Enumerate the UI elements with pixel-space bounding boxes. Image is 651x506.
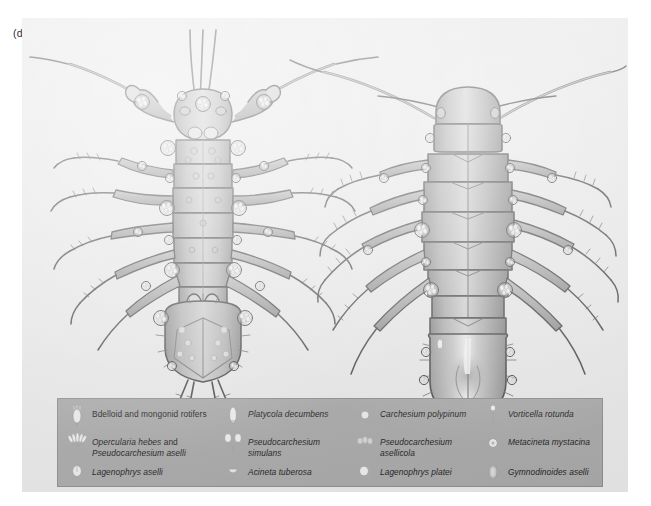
- lagenophrys-aselli-icon: [67, 462, 87, 484]
- legend-item-opercularia-hebes: Opercularia hebes andPseudocarchesium as…: [58, 432, 223, 458]
- legend-label: Metacineta mystacina: [508, 432, 590, 448]
- legend-row: Opercularia hebes andPseudocarchesium as…: [58, 432, 602, 458]
- legend-item-carchesium-polypinum: Carchesium polypinum: [355, 404, 483, 426]
- legend-item-pseudocarchesium-simulans: Pseudocarchesiumsimulans: [223, 432, 355, 458]
- legend-label: Platycola decumbens: [248, 404, 329, 420]
- legend-label: Opercularia hebes andPseudocarchesium as…: [92, 432, 186, 458]
- isopod-ventral-view: [30, 30, 378, 440]
- vorticella-rotunda-icon: [483, 404, 503, 426]
- legend-item-vorticella-rotunda: Vorticella rotunda: [483, 404, 602, 426]
- legend-label: Bdelloid and mongonid rotifers: [92, 404, 207, 420]
- legend-label: Lagenophrys platei: [380, 462, 452, 478]
- legend-item-lagenophrys-aselli: Lagenophrys aselli: [58, 462, 223, 484]
- gymnodinoides-aselli-icon: [483, 462, 503, 484]
- legend-item-acineta-tuberosa: Acineta tuberosa: [223, 462, 355, 484]
- legend-row: Bdelloid and mongonid rotifers Platycola…: [58, 404, 602, 426]
- legend-label: Acineta tuberosa: [248, 462, 312, 478]
- legend-item-gymnodinoides-aselli: Gymnodinoides aselli: [483, 462, 602, 484]
- legend-item-lagenophrys-platei: Lagenophrys platei: [355, 462, 483, 484]
- opercularia-hebes-icon: [67, 432, 87, 454]
- legend-label: Lagenophrys aselli: [92, 462, 163, 478]
- legend-item-bdelloid-rotifers: Bdelloid and mongonid rotifers: [58, 404, 223, 426]
- pseudocarchesium-asellicola-icon: [355, 432, 375, 454]
- legend-item-platycola-decumbens: Platycola decumbens: [223, 404, 355, 426]
- legend-label: Pseudocarchesiumsimulans: [248, 432, 320, 458]
- legend-label: Pseudocarchesiumasellicola: [380, 432, 452, 458]
- acineta-tuberosa-icon: [223, 462, 243, 484]
- bdelloid-rotifer-icon: [67, 404, 87, 426]
- legend-row: Lagenophrys aselli Acineta tuberosa: [58, 462, 602, 484]
- platycola-decumbens-icon: [223, 404, 243, 426]
- carchesium-polypinum-icon: [355, 404, 375, 426]
- legend-label: Gymnodinoides aselli: [508, 462, 589, 478]
- legend-label: Vorticella rotunda: [508, 404, 574, 420]
- figure-panel-d: (d): [0, 0, 651, 506]
- pseudocarchesium-simulans-icon: [223, 432, 243, 454]
- legend-item-metacineta-mystacina: Metacineta mystacina: [483, 432, 602, 458]
- legend-item-pseudocarchesium-asellicola: Pseudocarchesiumasellicola: [355, 432, 483, 458]
- legend-label: Carchesium polypinum: [380, 404, 466, 420]
- metacineta-mystacina-icon: [483, 432, 503, 454]
- lagenophrys-platei-icon: [355, 462, 375, 484]
- illustration-panel: Bdelloid and mongonid rotifers Platycola…: [22, 18, 628, 492]
- legend-box: Bdelloid and mongonid rotifers Platycola…: [57, 398, 603, 487]
